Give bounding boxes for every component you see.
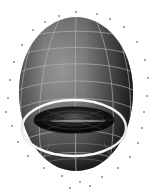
point-marker <box>11 125 13 127</box>
point-marker <box>5 111 7 113</box>
point-marker <box>27 155 29 157</box>
point-marker <box>136 41 138 43</box>
point-marker <box>43 167 45 169</box>
point-marker <box>147 77 149 79</box>
point-marker <box>69 187 71 189</box>
point-marker <box>17 141 19 143</box>
point-marker <box>58 15 60 17</box>
point-marker <box>141 127 143 129</box>
point-marker <box>21 44 23 46</box>
crater-cavity <box>34 107 114 133</box>
point-marker <box>75 11 77 13</box>
point-marker <box>146 95 148 97</box>
figure-canvas: Grayscale 3D shaded surface rendering of… <box>0 0 158 192</box>
surface-plot <box>0 0 158 192</box>
point-marker <box>61 175 63 177</box>
point-marker <box>13 61 15 63</box>
point-marker <box>123 26 125 28</box>
point-marker <box>109 18 111 20</box>
point-marker <box>143 111 145 113</box>
point-marker <box>7 97 9 99</box>
point-marker <box>101 176 103 178</box>
point-marker <box>137 142 139 144</box>
point-marker <box>79 181 81 183</box>
point-marker <box>44 21 46 23</box>
point-marker <box>117 167 119 169</box>
point-marker <box>32 29 34 31</box>
point-marker <box>9 79 11 81</box>
crater-specular-streak <box>50 120 106 122</box>
point-marker <box>129 156 131 158</box>
point-marker <box>96 13 98 15</box>
point-marker <box>144 59 146 61</box>
point-marker <box>89 185 91 187</box>
